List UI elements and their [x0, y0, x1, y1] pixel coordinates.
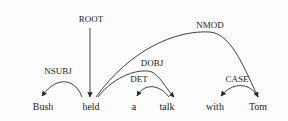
label-nsubj: NSUBJ [44, 66, 72, 76]
label-det: DET [130, 74, 148, 84]
label-dobj: DOBJ [141, 58, 164, 68]
word-a: a [132, 101, 137, 112]
dependency-diagram: Bush held a talk with Tom ROOT NSUBJ NMO… [0, 0, 288, 121]
word-held: held [82, 101, 99, 112]
label-nmod: NMOD [196, 20, 224, 30]
label-root: ROOT [79, 14, 104, 24]
word-bush: Bush [33, 101, 54, 112]
word-talk: talk [160, 101, 175, 112]
arc-det [137, 87, 169, 97]
arc-nmod [96, 32, 258, 97]
label-case: CASE [225, 74, 249, 84]
arc-nsubj [42, 82, 82, 97]
word-tom: Tom [249, 101, 267, 112]
word-with: with [206, 101, 224, 112]
arc-case [221, 86, 258, 97]
